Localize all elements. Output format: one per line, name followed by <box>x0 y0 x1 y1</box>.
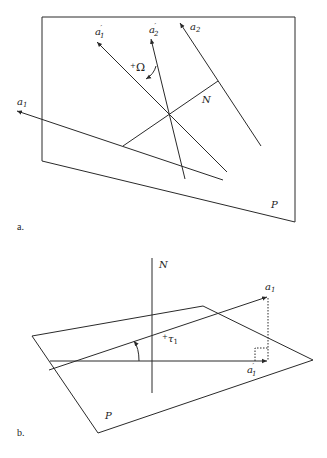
figure-canvas: a1 a2 a1′ a2′ +Ω N P a. N a1 <box>0 0 327 458</box>
label-normal-b: N <box>158 259 169 270</box>
panel-label-b: b. <box>17 427 25 438</box>
angle-tau-arc <box>134 341 139 361</box>
label-a2-prime-a: a2′ <box>149 22 159 38</box>
label-omega: +Ω <box>130 61 145 74</box>
label-normal-a: N <box>201 94 212 105</box>
panel-a: a1 a2 a1′ a2′ +Ω N P a. <box>17 17 295 232</box>
panel-label-a: a. <box>17 221 24 232</box>
label-a2-a: a2 <box>190 21 201 34</box>
axis-a2-a <box>180 23 261 146</box>
label-a1-prime-b: a1′ <box>247 362 256 378</box>
normal-n-a <box>123 81 218 146</box>
label-tau: +τ1 <box>162 333 178 346</box>
label-a1-prime-a: a1′ <box>95 24 104 40</box>
label-a1-b: a1 <box>265 281 275 294</box>
axis-a1-a <box>17 111 223 180</box>
label-plane-b: P <box>104 410 112 421</box>
label-plane-a: P <box>270 199 278 210</box>
plane-p-b <box>32 306 313 433</box>
angle-omega-arc <box>146 66 156 79</box>
label-a1-a: a1 <box>17 96 27 109</box>
panel-b: N a1 a1′ +τ1 P b. <box>17 258 313 438</box>
plane-p-a <box>42 17 295 222</box>
axis-a1-prime-a <box>97 42 227 172</box>
right-angle-mark <box>255 348 268 361</box>
axis-a1-b <box>49 297 267 370</box>
